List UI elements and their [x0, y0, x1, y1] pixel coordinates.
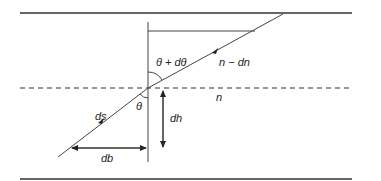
angle-arc-theta-plus-dtheta [148, 72, 162, 80]
lower-ray [58, 88, 148, 157]
label-theta: θ [136, 100, 142, 112]
refraction-diagram: θ + dθ n − dn n θ ds dh db [0, 0, 381, 181]
label-theta-plus-dtheta: θ + dθ [156, 56, 187, 68]
label-ds: ds [95, 110, 107, 122]
label-db: db [101, 152, 113, 164]
upper-ray-arrow-icon [212, 48, 218, 54]
label-n-minus-dn: n − dn [219, 56, 250, 68]
label-dh: dh [170, 112, 182, 124]
angle-arc-theta [140, 94, 148, 98]
label-n: n [216, 91, 222, 103]
